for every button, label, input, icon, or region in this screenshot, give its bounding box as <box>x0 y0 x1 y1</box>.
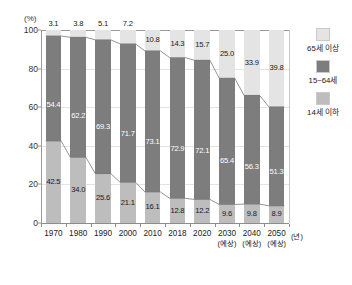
bar-group <box>70 30 86 223</box>
x-tick-mark <box>140 224 141 227</box>
legend-item: 65세 이상 <box>296 28 350 53</box>
bar-group <box>194 30 210 223</box>
x-tick-label-year: 2020 <box>193 229 211 238</box>
x-tick-mark <box>289 224 290 227</box>
legend-label: 14세 이하 <box>296 106 350 117</box>
legend-swatch <box>316 60 330 73</box>
x-tick-mark <box>115 224 116 227</box>
value-label-elderly: 10.8 <box>139 36 167 44</box>
bar-group <box>269 30 285 223</box>
value-label-elderly: 33.9 <box>238 59 266 67</box>
x-tick-label-projection: (예상) <box>260 239 294 249</box>
bar-group <box>120 30 136 223</box>
bar-segment-elderly <box>120 30 136 44</box>
x-tick-mark <box>190 224 191 227</box>
bar-segment-working-age <box>244 95 260 204</box>
value-label-young: 42.5 <box>40 178 68 186</box>
value-label-elderly: 3.8 <box>64 20 92 28</box>
legend-item: 14세 이하 <box>296 92 350 117</box>
value-label-young: 12.2 <box>188 207 216 215</box>
value-label-young: 25.6 <box>89 194 117 202</box>
value-label-working-age: 72.9 <box>164 145 192 153</box>
bar-segment-working-age <box>46 36 62 141</box>
value-label-working-age: 56.3 <box>238 163 266 171</box>
x-axis-unit-label: (년) <box>291 230 303 241</box>
value-label-young: 9.6 <box>213 210 241 218</box>
value-label-working-age: 71.7 <box>114 130 142 138</box>
bar-group <box>219 30 235 223</box>
value-label-working-age: 72.1 <box>188 147 216 155</box>
bar-group <box>145 30 161 223</box>
x-tick-label: 2050(예상) <box>260 229 294 248</box>
bar-segment-elderly <box>46 30 62 36</box>
value-label-young: 12.8 <box>164 207 192 215</box>
value-label-working-age: 62.2 <box>64 112 92 120</box>
bar-segment-working-age <box>194 60 210 199</box>
bar-segment-working-age <box>269 107 285 206</box>
legend-swatch <box>316 28 330 41</box>
value-label-young: 9.8 <box>238 210 266 218</box>
bar-group <box>170 30 186 223</box>
value-label-elderly: 5.1 <box>89 20 117 28</box>
bar-segment-working-age <box>70 37 86 157</box>
x-tick-mark <box>165 224 166 227</box>
value-label-working-age: 73.1 <box>139 138 167 146</box>
value-label-working-age: 65.4 <box>213 157 241 165</box>
bar-segment-working-age <box>120 44 136 182</box>
x-tick-mark <box>41 224 42 227</box>
x-tick-label-year: 2050 <box>267 229 285 238</box>
bar-segment-working-age <box>145 51 161 192</box>
value-label-young: 34.0 <box>64 186 92 194</box>
x-tick-mark <box>264 224 265 227</box>
x-tick-label-year: 1980 <box>69 229 87 238</box>
x-tick-mark <box>66 224 67 227</box>
value-label-young: 16.1 <box>139 203 167 211</box>
value-label-elderly: 25.0 <box>213 50 241 58</box>
bar-segment-working-age <box>219 78 235 204</box>
bar-group <box>46 30 62 223</box>
value-label-young: 21.1 <box>114 199 142 207</box>
x-tick-mark <box>239 224 240 227</box>
value-label-young: 8.9 <box>263 210 291 218</box>
bar-segment-working-age <box>170 58 186 199</box>
x-tick-label-year: 2000 <box>119 229 137 238</box>
value-label-elderly: 15.7 <box>188 41 216 49</box>
chart-legend: 65세 이상15~64세14세 이하 <box>296 28 350 123</box>
legend-label: 15~64세 <box>296 74 350 85</box>
x-tick-label-year: 2010 <box>143 229 161 238</box>
legend-label: 65세 이상 <box>296 42 350 53</box>
value-label-elderly: 39.8 <box>263 64 291 72</box>
legend-swatch <box>316 92 330 105</box>
bar-segment-elderly <box>70 30 86 37</box>
value-label-working-age: 51.3 <box>263 168 291 176</box>
value-label-elderly: 3.1 <box>40 20 68 28</box>
legend-item: 15~64세 <box>296 60 350 85</box>
x-tick-label-year: 1990 <box>94 229 112 238</box>
x-tick-label-year: 2018 <box>168 229 186 238</box>
value-label-elderly: 7.2 <box>114 20 142 28</box>
value-label-working-age: 54.4 <box>40 101 68 109</box>
value-label-working-age: 69.3 <box>89 123 117 131</box>
value-label-elderly: 14.3 <box>164 40 192 48</box>
x-tick-label-year: 2030 <box>218 229 236 238</box>
x-tick-mark <box>91 224 92 227</box>
population-composition-chart: (%) 100806040200 3.154.442.53.862.234.05… <box>0 0 352 285</box>
x-tick-label-year: 1970 <box>44 229 62 238</box>
bar-segment-elderly <box>95 30 111 40</box>
x-tick-mark <box>215 224 216 227</box>
x-tick-label-year: 2040 <box>243 229 261 238</box>
bar-segment-working-age <box>95 40 111 174</box>
